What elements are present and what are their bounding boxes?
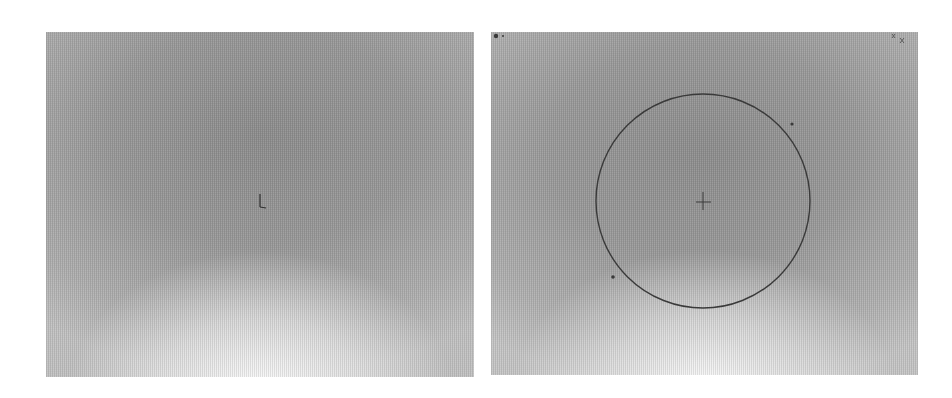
left-image-panel	[46, 32, 474, 377]
center-cross-marker-icon	[696, 192, 711, 210]
right-image-panel	[491, 32, 918, 375]
marker-dot-icon	[611, 275, 615, 279]
top-left-corner-mark-icon	[494, 34, 504, 38]
left-overlay	[46, 32, 474, 377]
top-right-corner-mark-icon	[892, 34, 904, 43]
marker-dot-icon	[790, 122, 793, 125]
right-overlay	[491, 32, 918, 375]
center-cross-marker-icon	[260, 194, 266, 208]
